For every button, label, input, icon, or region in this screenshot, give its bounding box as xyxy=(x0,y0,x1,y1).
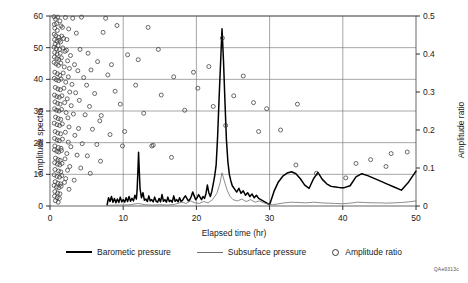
series-scatter-amplitude-ratio xyxy=(52,15,409,204)
scatter-point xyxy=(344,176,348,180)
scatter-point xyxy=(101,30,105,34)
scatter-point xyxy=(96,60,100,64)
scatter-point xyxy=(68,90,72,94)
scatter-point xyxy=(59,170,63,174)
scatter-point xyxy=(62,180,66,184)
scatter-point xyxy=(279,128,283,132)
scatter-point xyxy=(63,130,67,134)
scatter-point xyxy=(67,187,71,191)
scatter-point xyxy=(74,31,78,35)
scatter-point xyxy=(115,24,119,28)
scatter-point xyxy=(265,107,269,111)
legend-label-amplitude-ratio: Amplitude ratio xyxy=(345,247,402,257)
scatter-point xyxy=(109,63,113,67)
scatter-point xyxy=(80,142,84,146)
scatter-point xyxy=(99,159,103,163)
y-axis-right-tick-label: 0 xyxy=(423,201,428,211)
scatter-point xyxy=(53,26,57,30)
scatter-point xyxy=(90,127,94,131)
figure-id-code: QAe9313c xyxy=(434,266,459,272)
x-axis-tick-label: 30 xyxy=(265,213,275,223)
y-axis-right-tick-label: 0.2 xyxy=(423,125,435,135)
scatter-point xyxy=(69,145,73,149)
x-axis-tick-label: 20 xyxy=(192,213,202,223)
scatter-point xyxy=(241,74,245,78)
scatter-point xyxy=(85,83,89,87)
scatter-point xyxy=(134,83,138,87)
scatter-point xyxy=(67,66,71,70)
scatter-point xyxy=(159,93,163,97)
scatter-point xyxy=(82,76,86,80)
scatter-point xyxy=(170,155,174,159)
scatter-point xyxy=(75,153,79,157)
legend-label-subsurface: Subsurface pressure xyxy=(228,247,306,257)
scatter-point xyxy=(66,168,70,172)
scatter-point xyxy=(65,152,69,156)
scatter-point xyxy=(99,114,103,118)
scatter-point xyxy=(59,117,63,121)
scatter-point xyxy=(211,104,215,108)
legend-item-subsurface: Subsurface pressure xyxy=(197,247,306,257)
scatter-point xyxy=(67,125,71,129)
scatter-point xyxy=(61,71,65,75)
scatter-point xyxy=(71,112,75,116)
scatter-point xyxy=(79,166,83,170)
scatter-point xyxy=(73,133,77,137)
legend-item-barometric: Barometic pressure xyxy=(66,247,171,257)
scatter-point xyxy=(88,104,92,108)
chart-legend: Barometic pressure Subsurface pressure A… xyxy=(0,247,468,257)
y-axis-left-tick-label: 60 xyxy=(34,11,44,21)
scatter-point xyxy=(77,126,81,130)
y-axis-left-tick-label: 30 xyxy=(34,106,44,116)
scatter-point xyxy=(113,89,117,93)
y-axis-right-tick-label: 0.5 xyxy=(423,11,435,21)
scatter-point xyxy=(106,73,110,77)
scatter-point xyxy=(64,80,68,84)
scatter-point xyxy=(294,163,298,167)
scatter-point xyxy=(83,113,87,117)
subsurface-line-swatch xyxy=(197,252,223,253)
scatter-point xyxy=(120,144,124,148)
scatter-point xyxy=(98,119,102,123)
scatter-point xyxy=(86,51,90,55)
scatter-point xyxy=(62,65,66,69)
scatter-point xyxy=(68,164,72,168)
scatter-point xyxy=(146,25,150,29)
x-axis-tick-label: 0 xyxy=(48,213,53,223)
plot-area: 010203040506000.10.20.30.40.501020304050 xyxy=(0,0,468,240)
scatter-point xyxy=(63,157,67,161)
y-axis-right-tick-label: 0.1 xyxy=(423,163,435,173)
scatter-point xyxy=(71,16,75,20)
scatter-point xyxy=(77,98,81,102)
scatter-point xyxy=(85,154,89,158)
scatter-point xyxy=(58,102,62,106)
scatter-point xyxy=(126,53,130,57)
y-axis-right-tick-label: 0.4 xyxy=(423,49,435,59)
x-axis-tick-label: 50 xyxy=(411,213,421,223)
scatter-point xyxy=(191,70,195,74)
scatter-point xyxy=(72,178,76,182)
scatter-point xyxy=(95,142,99,146)
scatter-point xyxy=(65,97,69,101)
scatter-point xyxy=(207,65,211,69)
scatter-point xyxy=(405,150,409,154)
y-axis-left-tick-label: 20 xyxy=(34,138,44,148)
scatter-point xyxy=(118,102,122,106)
scatter-point xyxy=(66,140,70,144)
scatter-point xyxy=(66,75,70,79)
scatter-point xyxy=(104,16,108,20)
x-axis-tick-label: 10 xyxy=(118,213,128,223)
y-axis-right-tick-label: 0.3 xyxy=(423,87,435,97)
scatter-point xyxy=(64,177,68,181)
y-axis-left-tick-label: 50 xyxy=(34,43,44,53)
scatter-point xyxy=(172,75,176,79)
scatter-point xyxy=(369,158,373,162)
scatter-point xyxy=(384,164,388,168)
scatter-point xyxy=(78,47,82,51)
series-line-barometic-pressure xyxy=(107,29,416,205)
barometric-line-swatch xyxy=(66,251,92,253)
scatter-point xyxy=(183,108,187,112)
scatter-point xyxy=(66,59,70,63)
scatter-point xyxy=(69,104,73,108)
scatter-point xyxy=(142,111,146,115)
